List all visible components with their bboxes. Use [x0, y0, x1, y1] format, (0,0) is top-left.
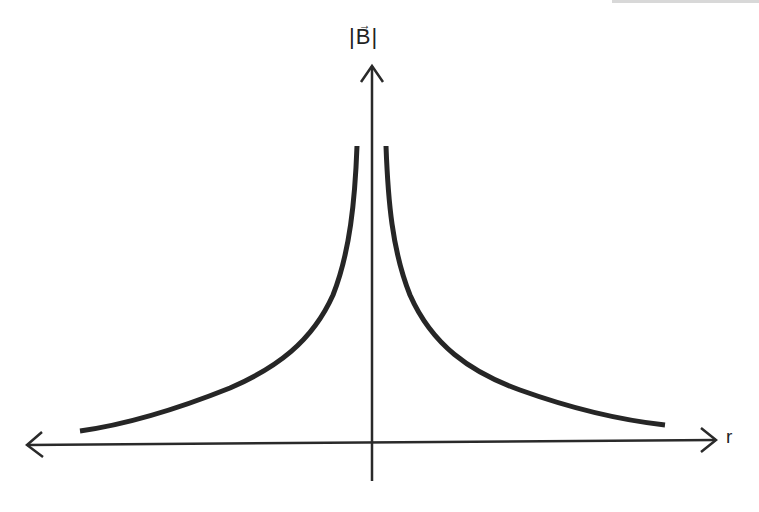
x-axis-label: r [726, 426, 732, 448]
abs-bar-left: | [349, 24, 356, 49]
vector-b: →B [356, 24, 372, 50]
field-diagram [0, 0, 759, 512]
y-axis-label: |→B| [349, 24, 378, 50]
curve-left-branch [80, 146, 357, 431]
abs-bar-right: | [371, 24, 378, 49]
curve-right-branch [386, 146, 665, 425]
y-axis [361, 66, 383, 481]
vector-arrow-icon: → [359, 18, 372, 32]
